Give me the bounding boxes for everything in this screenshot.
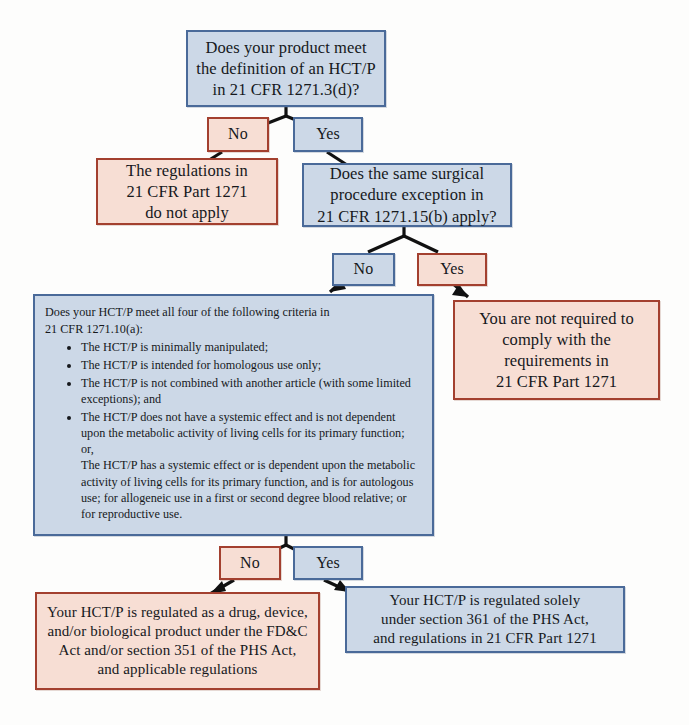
sec361-line-3: and regulations in 21 CFR Part 1271: [373, 629, 597, 648]
q3-yes-label: Yes: [316, 553, 340, 573]
q3-no-label: No: [240, 553, 260, 573]
node-outcome-regulated-solely-361[interactable]: Your HCT/P is regulated solely under sec…: [345, 586, 625, 653]
flowchart-canvas: Does your product meet the definition of…: [0, 0, 689, 725]
noapply-line-1: The regulations in: [126, 160, 248, 181]
node-question-four-criteria[interactable]: Does your HCT/P meet all four of the fol…: [33, 294, 434, 536]
drug-line-2: and/or biological product under the FD&C: [47, 622, 307, 641]
q1-line-3: in 21 CFR 1271.3(d)?: [213, 79, 360, 100]
q2-line-1: Does the same surgical: [330, 163, 484, 184]
notreq-line-2: comply with the: [502, 329, 611, 350]
criteria-bullet-list: The HCT/P is minimally manipulated; The …: [45, 339, 422, 522]
sec361-line-1: Your HCT/P is regulated solely: [390, 591, 581, 610]
node-question-hctp-definition[interactable]: Does your product meet the definition of…: [186, 30, 386, 107]
connector-q2-to-no: [368, 236, 404, 252]
noapply-line-3: do not apply: [145, 202, 229, 223]
criteria-bullet-4-main: The HCT/P does not have a systemic effec…: [81, 409, 422, 441]
node-outcome-not-required-to-comply[interactable]: You are not required to comply with the …: [453, 300, 660, 400]
criteria-lead-line-2: 21 CFR 1271.10(a):: [45, 321, 422, 337]
branch-label-q3-no[interactable]: No: [219, 546, 281, 580]
criteria-bullet-1: The HCT/P is minimally manipulated;: [81, 339, 422, 355]
drug-line-4: and applicable regulations: [97, 660, 257, 679]
criteria-lead-line-1: Does your HCT/P meet all four of the fol…: [45, 304, 422, 320]
connector-q2-to-yes: [404, 236, 438, 252]
notreq-line-4: 21 CFR Part 1271: [496, 371, 617, 392]
criteria-bullet-4-alternative: The HCT/P has a systemic effect or is de…: [81, 457, 422, 522]
criteria-bullet-4: The HCT/P does not have a systemic effec…: [81, 409, 422, 523]
q2-no-label: No: [354, 259, 374, 279]
drug-line-1: Your HCT/P is regulated as a drug, devic…: [47, 603, 308, 622]
q1-line-2: the definition of an HCT/P: [196, 58, 376, 79]
noapply-line-2: 21 CFR Part 1271: [126, 181, 247, 202]
notreq-line-1: You are not required to: [479, 308, 634, 329]
q2-yes-label: Yes: [440, 259, 464, 279]
criteria-bullet-3: The HCT/P is not combined with another a…: [81, 375, 422, 407]
branch-label-q1-no[interactable]: No: [207, 117, 269, 152]
criteria-bullet-4-or: or,: [81, 441, 422, 457]
notreq-line-3: requirements in: [504, 350, 609, 371]
branch-label-q1-yes[interactable]: Yes: [293, 117, 363, 152]
node-outcome-regulations-do-not-apply[interactable]: The regulations in 21 CFR Part 1271 do n…: [96, 158, 278, 225]
node-question-same-surgical-procedure[interactable]: Does the same surgical procedure excepti…: [302, 163, 512, 227]
node-outcome-regulated-as-drug-device[interactable]: Your HCT/P is regulated as a drug, devic…: [35, 592, 320, 690]
sec361-line-2: under section 361 of the PHS Act,: [381, 610, 589, 629]
q1-yes-label: Yes: [316, 124, 340, 144]
drug-line-3: Act and/or section 351 of the PHS Act,: [59, 641, 297, 660]
q1-line-1: Does your product meet: [205, 37, 366, 58]
branch-label-q2-yes[interactable]: Yes: [417, 253, 487, 286]
branch-label-q3-yes[interactable]: Yes: [293, 546, 363, 580]
q1-no-label: No: [228, 124, 248, 144]
q2-line-2: procedure exception in: [330, 184, 483, 205]
branch-label-q2-no[interactable]: No: [332, 253, 395, 286]
criteria-bullet-2: The HCT/P is intended for homologous use…: [81, 357, 422, 373]
q2-line-3: 21 CFR 1271.15(b) apply?: [317, 206, 496, 227]
